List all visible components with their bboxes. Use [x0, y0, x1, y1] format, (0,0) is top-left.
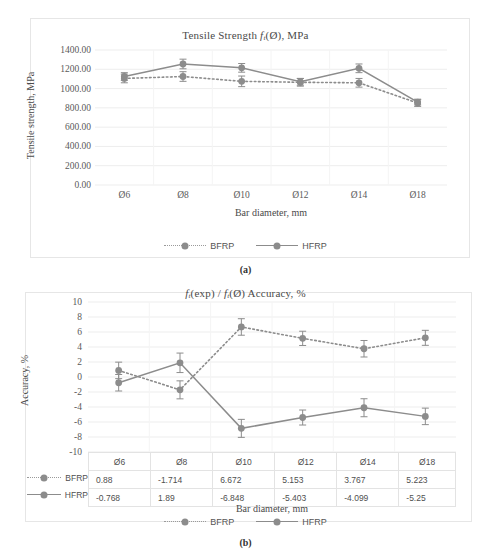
chart-a-x-tick-0: Ø6: [119, 190, 131, 200]
data-point-marker: [361, 404, 368, 411]
data-point-marker: [422, 413, 429, 420]
legend-label: BFRP: [210, 517, 234, 527]
chart-b-y-tick-8: -6: [74, 417, 82, 427]
chart-b-y-tick-9: -8: [74, 432, 82, 442]
data-point-marker: [180, 61, 187, 68]
table-cell-bfrp-2: 6.672: [213, 471, 275, 489]
chart-b-y-axis-title: Accuracy, %: [19, 321, 30, 441]
legend-marker-icon: [27, 473, 61, 482]
chart-a-legend-item-bfrp: BFRP: [164, 240, 234, 251]
chart-a-y-tick-2: 1000.00: [60, 84, 91, 94]
chart-b-y-axis-ticks: 1086420-2-4-6-8-10: [46, 302, 82, 452]
data-point-marker: [238, 64, 245, 71]
legend-marker-icon: [164, 517, 206, 526]
data-point-marker: [299, 414, 306, 421]
table-row-label-text: HFRP: [65, 490, 88, 500]
table-cell-bfrp-4: 3.767: [337, 471, 399, 489]
chart-b-legend-item-hfrp: HFRP: [256, 516, 327, 527]
chart-a-x-tick-1: Ø8: [177, 190, 189, 200]
chart-a-y-tick-3: 800.00: [65, 103, 91, 113]
data-point-marker: [414, 99, 421, 106]
chart-b-y-tick-5: 0: [77, 372, 82, 382]
legend-label: HFRP: [302, 517, 327, 527]
table-header-cell-3: Ø12: [275, 453, 337, 471]
data-point-marker: [297, 78, 304, 85]
data-point-marker: [121, 73, 128, 80]
chart-a-x-tick-4: Ø14: [351, 190, 367, 200]
chart-b-title-suffix: (Ø) Accuracy, %: [229, 287, 306, 299]
chart-a-x-axis-ticks: Ø6Ø8Ø10Ø12Ø14Ø18: [95, 190, 447, 204]
table-row-label-spacer: [18, 452, 88, 469]
data-point-marker: [180, 73, 187, 80]
chart-a-title-prefix: Tensile Strength: [182, 29, 260, 41]
chart-a-y-tick-5: 400.00: [65, 141, 91, 151]
data-point-marker: [422, 334, 429, 341]
table-cell-bfrp-0: 0.88: [89, 471, 151, 489]
chart-b-y-tick-2: 6: [77, 327, 82, 337]
chart-a-legend: BFRPHFRP: [0, 240, 491, 251]
data-point-marker: [356, 65, 363, 72]
table-row-label-text: BFRP: [65, 473, 88, 483]
chart-a-x-axis-title: Bar diameter, mm: [95, 207, 447, 218]
chart-a-title-suffix: (Ø), MPa: [266, 29, 309, 41]
chart-b-y-tick-4: 2: [77, 357, 82, 367]
chart-b-legend: BFRPHFRP: [0, 516, 491, 527]
chart-b-series-svg: [88, 302, 456, 452]
chart-b-data-table: Ø6Ø8Ø10Ø12Ø14Ø180.88-1.7146.6725.1533.76…: [88, 452, 456, 507]
chart-a-y-tick-0: 1400.00: [60, 45, 91, 55]
chart-b-y-tick-6: -2: [74, 387, 82, 397]
chart-a-series-svg: [95, 50, 447, 185]
chart-a-y-tick-7: 0.00: [74, 180, 91, 190]
figure-a-caption: (a): [0, 264, 491, 275]
legend-label: BFRP: [210, 241, 234, 251]
table-header-cell-0: Ø6: [89, 453, 151, 471]
chart-a-x-tick-2: Ø10: [233, 190, 249, 200]
chart-a-x-tick-3: Ø12: [292, 190, 308, 200]
data-point-marker: [177, 359, 184, 366]
data-point-marker: [177, 386, 184, 393]
table-cell-bfrp-3: 5.153: [275, 471, 337, 489]
table-row-label-bfrp: BFRP: [18, 469, 88, 486]
chart-a-legend-item-hfrp: HFRP: [256, 240, 327, 251]
data-point-marker: [361, 345, 368, 352]
figure-b-caption: (b): [0, 537, 491, 548]
chart-b-y-tick-0: 10: [73, 297, 83, 307]
figure-a: Tensile Strength ft(Ø), MPa 1400.001200.…: [0, 0, 491, 280]
data-point-marker: [238, 78, 245, 85]
chart-a-x-tick-5: Ø18: [409, 190, 425, 200]
data-point-marker: [299, 335, 306, 342]
data-point-marker: [238, 425, 245, 432]
table-cell-bfrp-1: -1.714: [151, 471, 213, 489]
chart-b-title-mid: (exp) /: [191, 287, 224, 299]
table-header-cell-5: Ø18: [399, 453, 456, 471]
legend-marker-icon: [256, 517, 298, 526]
chart-b-plot-area: [88, 302, 456, 452]
chart-b-legend-item-bfrp: BFRP: [164, 516, 234, 527]
data-point-marker: [115, 379, 122, 386]
chart-a-y-axis-title: Tensile strength, MPa: [25, 41, 36, 191]
table-cell-bfrp-5: 5.223: [399, 471, 456, 489]
table-row-label-hfrp: HFRP: [18, 486, 88, 503]
chart-b-y-tick-1: 8: [77, 312, 82, 322]
chart-a-y-tick-1: 1200.00: [60, 64, 91, 74]
chart-a-y-tick-4: 600.00: [65, 122, 91, 132]
chart-b-table-row-labels: BFRPHFRP: [18, 452, 88, 503]
legend-marker-icon: [256, 241, 298, 250]
legend-label: HFRP: [302, 241, 327, 251]
data-point-marker: [238, 324, 245, 331]
chart-b-x-axis-title: Bar diameter, mm: [88, 503, 456, 514]
chart-a-title: Tensile Strength ft(Ø), MPa: [0, 29, 491, 42]
legend-marker-icon: [27, 490, 61, 499]
chart-a-plot-area: [95, 50, 447, 185]
data-point-marker: [356, 79, 363, 86]
chart-b-y-tick-3: 4: [77, 342, 82, 352]
table-header-cell-1: Ø8: [151, 453, 213, 471]
table-header-cell-2: Ø10: [213, 453, 275, 471]
chart-a-y-axis-ticks: 1400.001200.001000.00800.00600.00400.002…: [35, 50, 91, 185]
table-header-cell-4: Ø14: [337, 453, 399, 471]
table-row: Ø6Ø8Ø10Ø12Ø14Ø18: [89, 453, 456, 471]
legend-marker-icon: [164, 241, 206, 250]
chart-b-y-tick-7: -4: [74, 402, 82, 412]
chart-a-y-tick-6: 200.00: [65, 161, 91, 171]
table-row: 0.88-1.7146.6725.1533.7675.223: [89, 471, 456, 489]
